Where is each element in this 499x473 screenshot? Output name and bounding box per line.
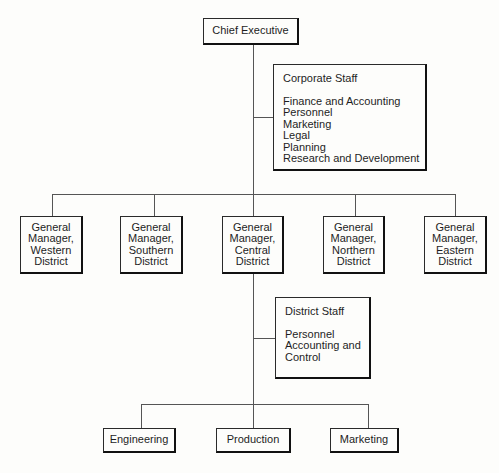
gm-line: District — [337, 256, 371, 268]
chief-executive-box: Chief Executive — [203, 18, 299, 45]
marketing-label: Marketing — [340, 434, 388, 446]
district-staff-title: District Staff — [285, 306, 369, 318]
corporate-staff-title: Corporate Staff — [283, 73, 425, 85]
gm-line: Manager, — [28, 233, 74, 245]
gm-line: District — [134, 256, 168, 268]
gm-western-box: General Manager, Western District — [20, 216, 83, 274]
gm-northern-box: General Manager, Northern District — [323, 216, 385, 274]
gm-southern-box: General Manager, Southern District — [120, 216, 183, 274]
department-bar — [141, 404, 369, 405]
gm-line: District — [438, 256, 472, 268]
gm-line: District — [34, 256, 68, 268]
corporate-staff-item: Legal — [283, 130, 425, 142]
connector-central — [253, 194, 254, 216]
gm-line: Manager, — [128, 233, 174, 245]
connector-southern — [154, 194, 155, 216]
production-box: Production — [216, 428, 291, 453]
gm-line: Manager, — [331, 233, 377, 245]
connector-production — [253, 404, 254, 428]
connector-northern — [355, 194, 356, 216]
gm-line: Manager, — [230, 233, 276, 245]
corporate-staff-item: Research and Development — [283, 153, 425, 165]
corporate-staff-box: Corporate Staff Finance and Accounting P… — [273, 64, 427, 171]
corporate-staff-item: Personnel — [283, 107, 425, 119]
connector-corporate-staff — [253, 117, 273, 118]
connector-marketing — [368, 404, 369, 428]
gm-line: District — [236, 256, 270, 268]
district-staff-box: District Staff Personnel Accounting and … — [275, 297, 371, 379]
gm-central-box: General Manager, Central District — [222, 216, 284, 274]
gm-line: Manager, — [432, 233, 478, 245]
connector-western — [52, 194, 53, 216]
engineering-label: Engineering — [110, 434, 169, 446]
engineering-box: Engineering — [103, 428, 176, 453]
marketing-box: Marketing — [330, 428, 399, 453]
district-staff-item: Accounting and — [285, 340, 369, 352]
district-bar — [52, 194, 456, 195]
connector-chief-to-districts — [253, 44, 254, 194]
gm-eastern-box: General Manager, Eastern District — [424, 216, 487, 274]
connector-district-staff — [253, 338, 275, 339]
chief-executive-label: Chief Executive — [212, 25, 288, 37]
connector-eastern — [455, 194, 456, 216]
production-label: Production — [227, 434, 280, 446]
district-staff-item: Control — [285, 352, 369, 364]
connector-engineering — [141, 404, 142, 428]
